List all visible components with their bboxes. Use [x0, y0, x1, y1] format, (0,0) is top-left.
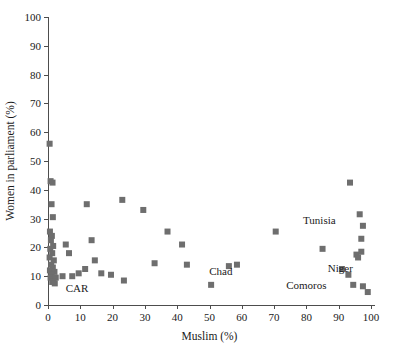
annotation-label: CAR [66, 282, 89, 294]
data-point-marker [66, 250, 72, 256]
data-point-marker [63, 242, 69, 248]
data-point-marker [50, 214, 56, 220]
data-point-marker [140, 207, 146, 213]
y-tick-label: 10 [30, 270, 42, 282]
data-point-marker [152, 260, 158, 266]
data-point-marker [47, 141, 53, 147]
annotation-label: Chad [209, 265, 233, 277]
annotation-label: Comoros [286, 279, 326, 291]
data-point-marker [60, 273, 66, 279]
y-tick-label: 30 [30, 213, 42, 225]
data-point-marker [119, 197, 125, 203]
data-point-marker [92, 257, 98, 263]
x-tick-label: 20 [107, 311, 119, 323]
data-point-marker [273, 229, 279, 235]
data-point-marker [49, 201, 55, 207]
data-point-marker [89, 237, 95, 243]
data-point-marker [184, 262, 190, 268]
y-tick-label: 90 [30, 40, 42, 52]
scatter-chart-figure: 0102030405060708090100010203040506070809… [0, 0, 397, 346]
data-point-marker [358, 236, 364, 242]
x-tick-label: 90 [333, 311, 345, 323]
y-tick-label: 60 [30, 126, 42, 138]
data-point-marker [108, 272, 114, 278]
y-axis-title: Women in parliament (%) [4, 101, 17, 221]
x-tick-label: 0 [45, 311, 51, 323]
annotation-label: Niger [328, 262, 353, 274]
x-tick-label: 30 [139, 311, 151, 323]
x-tick-label: 70 [269, 311, 281, 323]
y-tick-label: 40 [30, 184, 42, 196]
x-tick-label: 80 [301, 311, 313, 323]
x-tick-label: 40 [172, 311, 184, 323]
data-point-marker [165, 229, 171, 235]
y-tick-label: 50 [30, 155, 42, 167]
y-tick-label: 70 [30, 97, 42, 109]
data-point-marker [350, 282, 356, 288]
data-point-marker [48, 237, 54, 243]
data-point-marker [84, 201, 90, 207]
x-tick-label: 60 [236, 311, 248, 323]
data-point-marker [365, 289, 371, 295]
y-tick-label: 100 [25, 11, 42, 23]
data-point-marker [179, 242, 185, 248]
x-tick-label: 100 [363, 311, 380, 323]
data-point-marker [347, 180, 353, 186]
x-tick-label: 50 [204, 311, 216, 323]
data-point-marker [234, 262, 240, 268]
data-point-marker [357, 211, 363, 217]
x-tick-label: 10 [75, 311, 87, 323]
data-point-marker [98, 270, 104, 276]
annotation-label: Tunisia [303, 214, 336, 226]
data-point-marker [358, 249, 364, 255]
y-tick-label: 20 [30, 241, 42, 253]
data-point-marker [320, 246, 326, 252]
data-point-marker [121, 278, 127, 284]
data-point-marker [50, 180, 56, 186]
data-point-marker [355, 254, 361, 260]
data-point-marker [76, 270, 82, 276]
chart-canvas: 0102030405060708090100010203040506070809… [0, 0, 397, 346]
data-point-marker [360, 283, 366, 289]
y-tick-label: 80 [30, 69, 42, 81]
data-point-marker [52, 280, 58, 286]
data-point-marker [360, 223, 366, 229]
x-axis-title: Muslim (%) [182, 330, 238, 343]
data-point-marker [69, 273, 75, 279]
data-point-marker [82, 266, 88, 272]
data-point-marker [208, 282, 214, 288]
y-tick-label: 0 [36, 299, 42, 311]
